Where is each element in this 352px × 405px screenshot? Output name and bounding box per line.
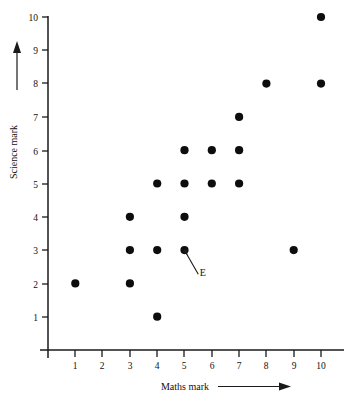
x-tick-label-2: 2 bbox=[100, 361, 105, 371]
x-tick-label-6: 6 bbox=[210, 361, 215, 371]
y-tick-label-9: 9 bbox=[33, 46, 38, 56]
y-tick-label-7: 7 bbox=[33, 113, 38, 123]
data-point bbox=[180, 179, 188, 187]
data-point bbox=[126, 213, 134, 221]
y-tick-label-1: 1 bbox=[33, 313, 38, 323]
scatter-plot-figure: 10 9 8 7 6 5 4 3 2 1 1 2 3 4 5 6 7 8 bbox=[0, 0, 352, 405]
data-point bbox=[153, 246, 161, 254]
data-point bbox=[235, 179, 243, 187]
annotation-layer: E bbox=[182, 248, 206, 277]
data-point bbox=[235, 146, 243, 154]
x-tick-label-4: 4 bbox=[155, 361, 160, 371]
data-points-layer bbox=[71, 13, 325, 321]
data-point bbox=[262, 80, 270, 88]
data-point bbox=[180, 146, 188, 154]
annotation-label: E bbox=[200, 267, 206, 278]
x-tick-label-7: 7 bbox=[237, 361, 242, 371]
y-axis-arrow-icon bbox=[13, 41, 21, 90]
y-tick-label-8: 8 bbox=[33, 79, 38, 89]
x-tick-label-5: 5 bbox=[182, 361, 187, 371]
scatter-plot-canvas: 10 9 8 7 6 5 4 3 2 1 1 2 3 4 5 6 7 8 bbox=[0, 0, 352, 405]
y-tick-label-4: 4 bbox=[33, 213, 38, 223]
data-point bbox=[180, 213, 188, 221]
x-tick-label-9: 9 bbox=[292, 361, 297, 371]
y-tick-label-2: 2 bbox=[33, 280, 38, 290]
y-axis-ticks bbox=[42, 17, 48, 317]
y-tick-label-10: 10 bbox=[29, 13, 39, 23]
x-tick-label-3: 3 bbox=[128, 361, 133, 371]
data-point bbox=[126, 279, 134, 287]
x-axis-arrow-icon bbox=[218, 383, 291, 391]
data-point bbox=[290, 246, 298, 254]
x-tick-label-8: 8 bbox=[264, 361, 269, 371]
data-point bbox=[153, 179, 161, 187]
data-point bbox=[208, 179, 216, 187]
data-point bbox=[317, 80, 325, 88]
data-point bbox=[71, 279, 79, 287]
y-axis-title: Science mark bbox=[8, 125, 19, 179]
data-point bbox=[235, 113, 243, 121]
y-tick-label-3: 3 bbox=[33, 246, 38, 256]
x-tick-label-1: 1 bbox=[73, 361, 78, 371]
x-axis-title: Maths mark bbox=[161, 381, 209, 392]
x-axis-ticks bbox=[75, 350, 321, 357]
data-point bbox=[208, 146, 216, 154]
data-point bbox=[317, 13, 325, 21]
y-tick-label-6: 6 bbox=[33, 147, 38, 157]
x-tick-label-10: 10 bbox=[316, 361, 326, 371]
data-point bbox=[126, 246, 134, 254]
data-point bbox=[153, 313, 161, 321]
y-tick-label-5: 5 bbox=[33, 180, 38, 190]
